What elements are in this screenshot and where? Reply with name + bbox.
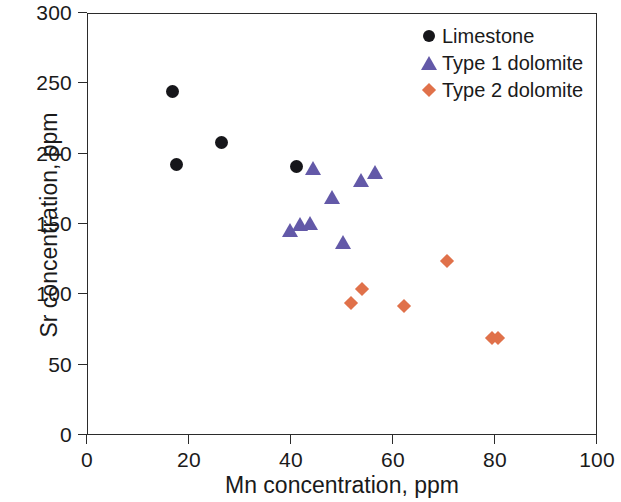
data-point-triangle bbox=[305, 161, 321, 175]
x-tick-label: 20 bbox=[159, 449, 219, 470]
y-tick-mark bbox=[78, 223, 87, 224]
data-point-triangle bbox=[302, 216, 318, 230]
x-tick-mark bbox=[596, 435, 597, 444]
plot-frame-right bbox=[596, 13, 597, 436]
legend-item-triangle: Type 1 dolomite bbox=[418, 49, 593, 76]
data-point-triangle bbox=[367, 165, 383, 179]
data-point-circle bbox=[290, 160, 303, 173]
data-point-circle bbox=[215, 136, 228, 149]
legend-item-circle: Limestone bbox=[418, 22, 593, 49]
legend-label: Type 1 dolomite bbox=[442, 52, 583, 74]
data-point-triangle bbox=[335, 235, 351, 249]
legend-circle-icon bbox=[418, 25, 440, 47]
x-axis-title: Mn concentration, ppm bbox=[87, 472, 597, 498]
x-tick-label: 40 bbox=[261, 449, 321, 470]
y-axis-title: Sr concentration, ppm bbox=[36, 15, 62, 435]
x-tick-label: 0 bbox=[57, 449, 117, 470]
legend-triangle-icon bbox=[418, 52, 440, 74]
x-tick-mark bbox=[290, 435, 291, 444]
y-tick-mark bbox=[78, 82, 87, 83]
scatter-chart-figure: 050100150200250300 020406080100 Mn conce… bbox=[0, 0, 621, 502]
y-tick-mark bbox=[78, 153, 87, 154]
triangle-glyph-icon bbox=[421, 56, 437, 70]
y-tick-mark bbox=[78, 364, 87, 365]
x-tick-label: 60 bbox=[363, 449, 423, 470]
x-tick-label: 80 bbox=[465, 449, 525, 470]
legend-diamond-icon bbox=[418, 79, 440, 101]
x-tick-mark bbox=[494, 435, 495, 444]
data-point-triangle bbox=[324, 190, 340, 204]
legend-item-diamond: Type 2 dolomite bbox=[418, 76, 593, 103]
diamond-glyph-icon bbox=[422, 82, 436, 96]
legend-label: Type 2 dolomite bbox=[442, 79, 583, 101]
chart-legend: LimestoneType 1 dolomiteType 2 dolomite bbox=[418, 22, 593, 103]
y-tick-mark bbox=[78, 293, 87, 294]
circle-glyph-icon bbox=[423, 30, 435, 42]
data-point-circle bbox=[166, 85, 179, 98]
legend-label: Limestone bbox=[442, 25, 534, 47]
x-tick-label: 100 bbox=[567, 449, 621, 470]
x-tick-mark bbox=[392, 435, 393, 444]
plot-frame-top bbox=[87, 13, 597, 14]
x-tick-mark bbox=[188, 435, 189, 444]
y-tick-mark bbox=[78, 12, 87, 13]
x-tick-mark bbox=[86, 435, 87, 444]
